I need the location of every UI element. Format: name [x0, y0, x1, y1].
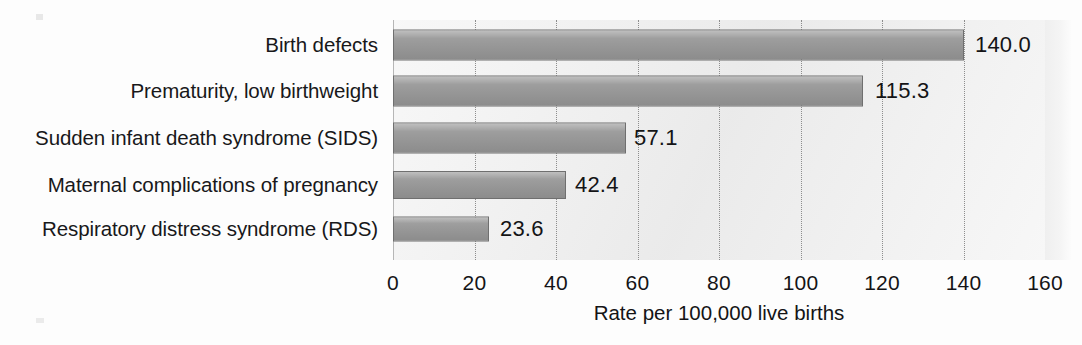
xtick-label-160: 160 [1027, 272, 1063, 293]
bar-maternal-complications [393, 171, 566, 199]
xtick-label-140: 140 [946, 272, 982, 293]
xtick-label-100: 100 [783, 272, 819, 293]
plot-right-fade [1045, 20, 1071, 260]
value-label-rds: 23.6 [500, 218, 544, 240]
bar-prematurity [393, 76, 863, 107]
xtick-label-60: 60 [626, 272, 650, 293]
category-label-rds: Respiratory distress syndrome (RDS) [0, 219, 378, 240]
xtick-label-0: 0 [387, 272, 399, 293]
xtick-label-80: 80 [707, 272, 731, 293]
value-label-maternal-complications: 42.4 [575, 174, 619, 196]
bar-rds [393, 217, 489, 242]
xtick-label-20: 20 [463, 272, 487, 293]
xtick-label-40: 40 [544, 272, 568, 293]
value-label-sids: 57.1 [634, 127, 678, 149]
category-label-prematurity: Prematurity, low birthweight [0, 81, 378, 102]
x-axis-title: Rate per 100,000 live births [393, 303, 1045, 324]
plot-area [393, 20, 1045, 260]
value-label-prematurity: 115.3 [875, 80, 929, 102]
category-label-birth-defects: Birth defects [0, 35, 378, 56]
value-label-birth-defects: 140.0 [975, 34, 1031, 56]
bar-sids [393, 123, 626, 154]
category-axis-labels: Birth defects Prematurity, low birthweig… [0, 0, 386, 255]
category-label-maternal-complications: Maternal complications of pregnancy [0, 175, 378, 196]
scan-artifact [36, 318, 44, 323]
category-label-sids: Sudden infant death syndrome (SIDS) [0, 128, 378, 149]
bar-birth-defects [393, 30, 964, 61]
gridline-140 [964, 20, 965, 260]
bar-chart-figure: Birth defects Prematurity, low birthweig… [0, 0, 1082, 345]
xtick-label-120: 120 [864, 272, 900, 293]
